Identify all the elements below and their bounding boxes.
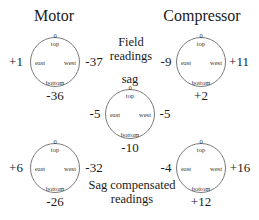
field-readings-caption: Field readings [110, 35, 152, 63]
field-caption-line1: Field [110, 35, 152, 49]
west-reading: -5 [160, 106, 171, 122]
east-label: east [110, 111, 120, 118]
bottom-reading: -36 [46, 88, 63, 104]
east-label: east [35, 59, 45, 66]
west-label: west [139, 111, 151, 118]
east-reading: +1 [9, 54, 23, 70]
top-label: top [197, 40, 205, 47]
east-reading: -5 [90, 106, 101, 122]
west-reading: +11 [229, 54, 249, 70]
east-label: east [181, 59, 191, 66]
top-label: top [197, 146, 205, 153]
bottom-label: bottom [192, 79, 210, 86]
zero-label: 0 [53, 32, 56, 39]
east-reading: -9 [161, 54, 172, 70]
bottom-reading: -26 [46, 194, 63, 210]
compressor-field-gauge: 0 top east west bottom -9 +11 +2 [176, 37, 226, 87]
top-label: top [51, 146, 59, 153]
field-caption-line2: readings [110, 49, 152, 63]
bottom-reading: +2 [194, 88, 208, 104]
zero-label: 0 [199, 138, 202, 145]
motor-title: Motor [34, 7, 74, 25]
east-label: east [181, 165, 191, 172]
top-label: top [51, 40, 59, 47]
compressor-title: Compressor [163, 7, 240, 25]
sag-compensated-caption: Sag compensated readings [88, 178, 175, 206]
zero-label: 0 [128, 84, 131, 91]
motor-compensated-gauge: 0 top east west bottom +6 -32 -26 [30, 143, 80, 193]
bottom-label: bottom [46, 79, 64, 86]
west-label: west [64, 59, 76, 66]
zero-label: 0 [199, 32, 202, 39]
west-reading: -32 [85, 160, 102, 176]
motor-field-gauge: 0 top east west bottom +1 -37 -36 [30, 37, 80, 87]
east-reading: -4 [161, 160, 172, 176]
comp-caption-line1: Sag compensated [88, 178, 175, 192]
west-label: west [64, 165, 76, 172]
comp-caption-line2: readings [88, 192, 175, 206]
west-label: west [210, 165, 222, 172]
east-reading: +6 [9, 160, 23, 176]
bottom-label: bottom [46, 185, 64, 192]
sag-gauge: 0 top east west bottom -5 -5 -10 [105, 89, 155, 139]
compressor-compensated-gauge: 0 top east west bottom -4 +16 +12 [176, 143, 226, 193]
east-label: east [35, 165, 45, 172]
bottom-label: bottom [192, 185, 210, 192]
bottom-reading: +12 [191, 194, 211, 210]
top-label: top [126, 92, 134, 99]
zero-label: 0 [53, 138, 56, 145]
west-reading: -37 [85, 54, 102, 70]
bottom-label: bottom [121, 131, 139, 138]
bottom-reading: -10 [121, 140, 138, 156]
west-label: west [210, 59, 222, 66]
west-reading: +16 [230, 160, 250, 176]
